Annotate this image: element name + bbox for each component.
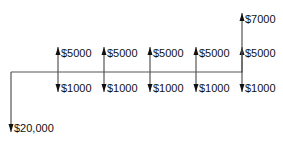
arrow-down-icon: [9, 124, 14, 132]
cash-flow-amount-label: $1000: [245, 83, 276, 94]
cash-flow-arrow-down: [194, 72, 199, 92]
cash-flow-amount-label: $5000: [199, 48, 230, 59]
arrow-down-icon: [240, 84, 245, 92]
arrow-down-icon: [56, 84, 61, 92]
cash-flow-arrow-up: [56, 47, 61, 72]
cash-flow-amount-label: $20,000: [14, 123, 54, 134]
arrow-up-icon: [56, 47, 61, 55]
cash-flow-arrow-up: [148, 47, 153, 72]
arrow-down-icon: [102, 84, 107, 92]
arrow-up-icon: [194, 47, 199, 55]
cash-flow-amount-label: $1000: [61, 83, 92, 94]
cash-flow-arrow-down: [240, 72, 245, 92]
arrow-down-icon: [148, 84, 153, 92]
cash-flow-arrow-up: [102, 47, 107, 72]
arrow-up-icon: [240, 13, 245, 21]
arrow-down-icon: [194, 84, 199, 92]
cash-flow-amount-label: $1000: [107, 83, 138, 94]
cash-flow-amount-label: $1000: [153, 83, 184, 94]
cash-flow-arrow-down: [148, 72, 153, 92]
cash-flow-arrow-up: [194, 47, 199, 72]
cash-flow-arrow-down: [56, 72, 61, 92]
cash-flow-amount-label: $1000: [199, 83, 230, 94]
cash-flow-amount-label: $5000: [61, 48, 92, 59]
cash-flow-arrow-down: [9, 72, 14, 132]
cash-flow-amount-label: $5000: [245, 48, 276, 59]
cash-flow-arrow-down: [102, 72, 107, 92]
cash-flow-amount-label: $5000: [107, 48, 138, 59]
arrow-up-icon: [148, 47, 153, 55]
cash-flow-arrow-up: [240, 13, 245, 72]
cash-flow-diagram: $20,000$5000$1000$5000$1000$5000$1000$50…: [0, 0, 283, 149]
cash-flow-amount-label: $5000: [153, 48, 184, 59]
arrow-up-icon: [102, 47, 107, 55]
cash-flow-amount-label: $7000: [245, 14, 276, 25]
